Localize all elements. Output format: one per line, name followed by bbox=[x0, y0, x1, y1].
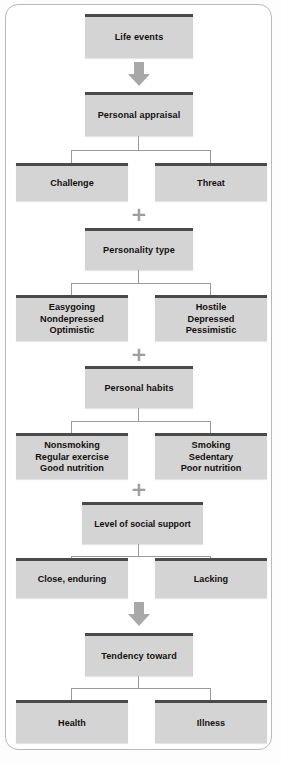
plus-connector-2: + bbox=[128, 343, 150, 365]
node-lacking-label: Lacking bbox=[155, 574, 267, 585]
node-threat: Threat bbox=[155, 163, 267, 201]
node-close-enduring-label: Close, enduring bbox=[16, 574, 128, 585]
branch-drop-left-1 bbox=[71, 150, 72, 163]
node-health: Health bbox=[16, 700, 128, 743]
node-smoking-label: Smoking Sedentary Poor nutrition bbox=[155, 440, 267, 475]
node-hostile: Hostile Depressed Pessimistic bbox=[155, 295, 267, 341]
node-personal-habits-label: Personal habits bbox=[85, 383, 193, 394]
branch-drop-left-2 bbox=[71, 283, 72, 295]
arrow-head bbox=[128, 614, 150, 626]
node-illness: Illness bbox=[155, 700, 267, 743]
node-personal-appraisal-label: Personal appraisal bbox=[85, 110, 193, 121]
branch-drop-right-2 bbox=[210, 283, 211, 295]
branch-bar-1 bbox=[71, 150, 211, 151]
node-lacking: Lacking bbox=[155, 558, 267, 598]
plus-symbol: + bbox=[131, 479, 148, 499]
plus-connector-1: + bbox=[128, 203, 150, 225]
node-challenge-label: Challenge bbox=[16, 178, 128, 189]
node-personality-type-label: Personality type bbox=[85, 245, 193, 256]
branch-drop-right-1 bbox=[210, 150, 211, 163]
node-personal-habits: Personal habits bbox=[85, 366, 193, 408]
plus-symbol: + bbox=[131, 344, 148, 364]
node-social-support-label: Level of social support bbox=[82, 519, 203, 530]
plus-connector-3: + bbox=[128, 478, 150, 500]
node-nonsmoking-label: Nonsmoking Regular exercise Good nutriti… bbox=[16, 440, 128, 475]
branch-stem-1 bbox=[138, 136, 139, 150]
node-close-enduring: Close, enduring bbox=[16, 558, 128, 598]
node-hostile-label: Hostile Depressed Pessimistic bbox=[155, 302, 267, 337]
branch-drop-left-5 bbox=[71, 688, 72, 700]
node-nonsmoking: Nonsmoking Regular exercise Good nutriti… bbox=[16, 433, 128, 479]
branch-stem-3 bbox=[138, 408, 139, 421]
node-life-events: Life events bbox=[85, 14, 193, 58]
node-easygoing-label: Easygoing Nondepressed Optimistic bbox=[16, 302, 128, 337]
node-personal-appraisal: Personal appraisal bbox=[85, 92, 193, 136]
node-smoking: Smoking Sedentary Poor nutrition bbox=[155, 433, 267, 479]
node-threat-label: Threat bbox=[155, 178, 267, 189]
node-illness-label: Illness bbox=[155, 718, 267, 729]
branch-stem-4 bbox=[138, 544, 139, 556]
branch-bar-4 bbox=[71, 556, 211, 557]
node-health-label: Health bbox=[16, 718, 128, 729]
plus-symbol: + bbox=[131, 204, 148, 224]
node-challenge: Challenge bbox=[16, 163, 128, 201]
node-tendency-toward: Tendency toward bbox=[85, 633, 193, 676]
down-arrow-icon-1 bbox=[128, 62, 150, 87]
branch-stem-2 bbox=[138, 270, 139, 283]
branch-drop-left-3 bbox=[71, 421, 72, 433]
node-easygoing: Easygoing Nondepressed Optimistic bbox=[16, 295, 128, 341]
node-social-support: Level of social support bbox=[82, 502, 203, 544]
branch-bar-3 bbox=[71, 421, 211, 422]
branch-bar-5 bbox=[71, 688, 211, 689]
arrow-head bbox=[128, 74, 150, 86]
branch-stem-5 bbox=[138, 676, 139, 688]
node-personality-type: Personality type bbox=[85, 228, 193, 270]
flowchart-stage: Life events Personal appraisal Challenge… bbox=[0, 0, 281, 764]
node-life-events-label: Life events bbox=[85, 32, 193, 43]
branch-drop-right-5 bbox=[210, 688, 211, 700]
down-arrow-icon-2 bbox=[128, 602, 150, 627]
branch-bar-2 bbox=[71, 283, 211, 284]
branch-drop-right-3 bbox=[210, 421, 211, 433]
node-tendency-toward-label: Tendency toward bbox=[85, 651, 193, 662]
